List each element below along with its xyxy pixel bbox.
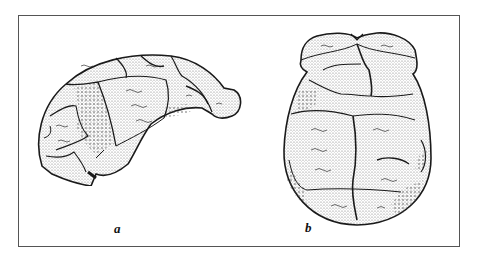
skull-lateral-drawing [36,46,246,186]
view-label-a: a [114,222,121,235]
view-label-b: b [305,221,312,234]
skull-superior-drawing [281,30,435,228]
skull-lateral-view [36,46,246,186]
skull-superior-view [281,30,435,228]
